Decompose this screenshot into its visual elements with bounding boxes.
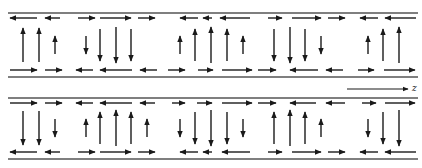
panels-group	[8, 13, 418, 159]
vector-field-diagram: z	[0, 0, 422, 168]
upper-panel	[8, 13, 418, 77]
diagram-canvas	[0, 0, 422, 168]
lower-panel	[8, 98, 418, 159]
z-axis-label: z	[412, 83, 417, 93]
